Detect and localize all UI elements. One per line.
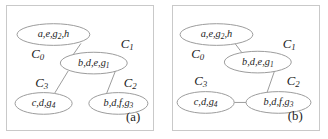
cluster-label-c1: C1 [283,37,296,52]
cluster-graph-figure: a,e,g2,hb,d,e,g1c,d,g4b,d,f,g3 C0C1C3C2 … [0,0,328,139]
panel-b: a,e,g2,hb,d,e,g1c,d,g4b,d,f,g3 C0C1C3C2 … [172,5,320,131]
cluster-label-c3: C3 [194,74,208,89]
node-label: b,d,f,g3 [264,96,294,108]
cluster-label-c2: C2 [124,76,138,91]
panel-b-canvas: a,e,g2,hb,d,e,g1c,d,g4b,d,f,g3 C0C1C3C2 … [173,6,319,130]
cluster-label-c3: C3 [35,76,49,91]
edge-c1-c2 [107,71,116,94]
panel-a-canvas: a,e,g2,hb,d,e,g1c,d,g4b,d,f,g3 C0C1C3C2 … [7,6,153,130]
edge-c1-c2 [267,71,275,94]
node-c3: c,d,g4 [15,93,72,115]
panel-a: a,e,g2,hb,d,e,g1c,d,g4b,d,f,g3 C0C1C3C2 … [6,5,154,131]
cluster-label-c2: C2 [287,74,301,89]
node-c0: a,e,g2,h [17,24,90,46]
node-label: b,d,e,g1 [78,57,110,69]
edge-c1-c3 [54,71,68,94]
node-c0: a,e,g2,h [180,24,253,46]
node-label: b,d,f,g3 [103,97,133,109]
node-label: a,e,g2,h [201,28,233,40]
panel-b-caption: (b) [288,109,303,123]
node-c1: b,d,e,g1 [224,51,291,73]
node-c1: b,d,e,g1 [60,52,127,74]
cluster-label-c0: C0 [31,47,45,62]
node-c3: c,d,g4 [177,92,234,114]
node-label: a,e,g2,h [38,28,70,40]
panel-a-caption: (a) [126,110,140,124]
node-label: b,d,e,g1 [242,56,274,68]
cluster-label-c1: C1 [121,37,134,52]
cluster-label-c0: C0 [191,47,205,62]
